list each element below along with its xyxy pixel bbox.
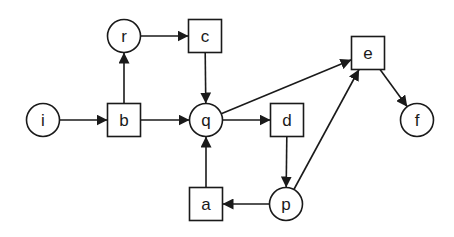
place-p: p <box>270 188 303 221</box>
transition-a: a <box>190 188 223 221</box>
node-label: r <box>121 27 127 46</box>
transition-c: c <box>189 20 222 53</box>
node-label: a <box>201 195 211 214</box>
place-f: f <box>401 104 434 137</box>
node-label: q <box>201 111 210 130</box>
petri-net-diagram: irqpfbcdae <box>0 0 454 237</box>
node-label: b <box>119 111 128 130</box>
place-i: i <box>27 104 60 137</box>
transition-b: b <box>108 104 141 137</box>
transition-d: d <box>271 104 304 137</box>
node-label: f <box>415 111 420 130</box>
arc-d-to-p <box>286 137 287 188</box>
node-label: e <box>363 44 372 63</box>
node-label: p <box>281 195 290 214</box>
node-label: i <box>41 111 45 130</box>
arc-c-to-q <box>205 53 206 104</box>
place-q: q <box>190 104 223 137</box>
node-label: c <box>201 27 210 46</box>
place-r: r <box>108 20 141 53</box>
transition-e: e <box>352 37 385 70</box>
arc-e-to-f <box>380 70 407 107</box>
node-label: d <box>282 111 291 130</box>
